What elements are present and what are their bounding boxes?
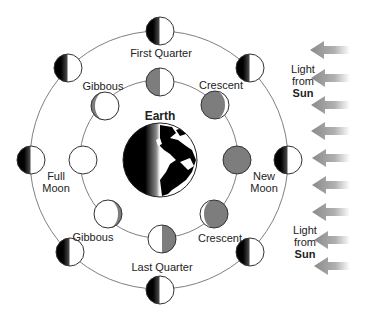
sun-label-line2: from xyxy=(285,236,325,248)
inner-moon-new-moon-icon xyxy=(223,146,251,174)
label-light-from-sun-bottom: Light from Sun xyxy=(285,224,325,260)
inner-moon-crescent-bottom-icon xyxy=(200,200,228,228)
sun-label-line3: Sun xyxy=(285,248,325,260)
inner-moon-gibbous-bottom-icon xyxy=(94,200,122,228)
outer-moon-bottom-icon xyxy=(146,276,174,304)
sun-label-line3: Sun xyxy=(283,87,323,99)
label-light-from-sun-top: Light from Sun xyxy=(283,63,323,99)
sun-label-line2: from xyxy=(283,75,323,87)
label-gibbous-bottom: Gibbous xyxy=(71,231,115,243)
label-full-moon-2: Moon xyxy=(40,182,72,194)
label-full-moon-1: Full xyxy=(40,170,72,182)
inner-moon-gibbous-top-icon xyxy=(91,92,119,120)
label-crescent-top: Crescent xyxy=(195,79,247,91)
inner-moon-last-quarter-icon xyxy=(148,225,176,253)
sunlight-arrow-icon xyxy=(311,122,350,140)
moon-phases-diagram: First Quarter Gibbous Crescent Earth Ful… xyxy=(0,0,366,320)
outer-moon-top-left-icon xyxy=(54,54,82,82)
sunlight-arrow-icon xyxy=(310,41,350,59)
inner-moon-crescent-top-icon xyxy=(201,91,229,119)
outer-moon-top-right-icon xyxy=(236,54,264,82)
label-new-moon-2: Moon xyxy=(248,182,280,194)
label-new-moon-1: New xyxy=(248,170,280,182)
label-earth: Earth xyxy=(140,110,180,122)
earth-icon xyxy=(123,123,197,197)
label-crescent-bottom: Crescent xyxy=(194,232,246,244)
label-first-quarter: First Quarter xyxy=(129,47,193,59)
label-gibbous-top: Gibbous xyxy=(81,80,125,92)
sun-label-line1: Light xyxy=(283,63,323,75)
outer-moon-top-icon xyxy=(146,17,174,45)
sunlight-arrow-icon xyxy=(312,149,350,167)
sun-label-line1: Light xyxy=(285,224,325,236)
inner-moon-first-quarter-icon xyxy=(146,68,174,96)
inner-moon-full-moon-icon xyxy=(69,146,97,174)
label-last-quarter: Last Quarter xyxy=(128,261,196,273)
sunlight-arrow-icon xyxy=(312,203,350,221)
sunlight-arrow-icon xyxy=(312,176,350,194)
